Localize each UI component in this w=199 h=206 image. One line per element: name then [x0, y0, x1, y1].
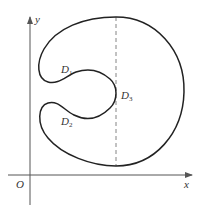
origin-label: O — [16, 179, 24, 190]
region-label-d3: D3 — [121, 90, 132, 103]
x-axis-label: x — [184, 179, 189, 190]
region-label-d1: D1 — [61, 64, 72, 77]
y-axis-label: y — [35, 14, 40, 25]
diagram-figure: y x O D1 D2 D3 — [0, 0, 199, 206]
diagram-canvas — [0, 0, 199, 206]
region-boundary-curve — [39, 17, 184, 166]
region-label-d2: D2 — [61, 116, 72, 129]
